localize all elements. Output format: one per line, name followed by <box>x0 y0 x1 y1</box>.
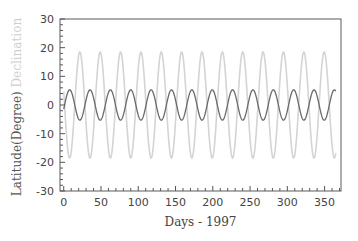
x-tick-label: 150 <box>165 196 186 209</box>
chart: 050100150200250300350 3020100-10-20-30 D… <box>0 0 358 241</box>
y-tick-label: 10 <box>40 70 54 83</box>
x-axis-title: Days - 1997 <box>165 215 237 229</box>
y-axis-title-part-1: Declination <box>10 18 24 92</box>
x-tick-label: 300 <box>277 196 298 209</box>
x-tick-label: 100 <box>128 196 149 209</box>
x-tick-label: 50 <box>94 196 108 209</box>
x-tick-label: 200 <box>202 196 223 209</box>
x-tick-label: 350 <box>314 196 335 209</box>
x-tick-label: 250 <box>240 196 261 209</box>
y-tick-label: -20 <box>36 156 54 169</box>
y-tick-label: 30 <box>40 13 54 26</box>
y-tick-label: -30 <box>36 185 54 198</box>
y-axis-title-part-0: Latitude(Degree) <box>10 91 24 196</box>
y-tick-label: -10 <box>36 128 54 141</box>
y-tick-label: 0 <box>47 99 54 112</box>
x-tick-label: 0 <box>60 196 67 209</box>
y-axis-title: Latitude(Degree) Declination <box>10 18 24 197</box>
y-tick-label: 20 <box>40 42 54 55</box>
